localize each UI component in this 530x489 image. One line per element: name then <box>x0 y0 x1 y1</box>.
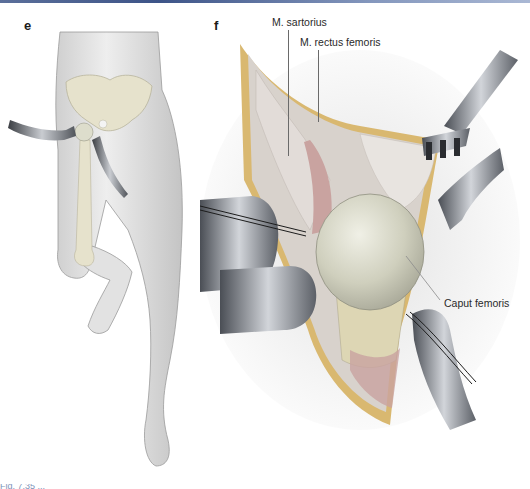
caption-fragment: Fig. 7.35 ... <box>0 484 110 489</box>
label-m-sartorius: M. sartorius <box>272 16 327 28</box>
illustration-surgical-field <box>200 30 530 450</box>
leader-line-rectus-femoris <box>318 50 319 122</box>
leader-line-sartorius <box>288 30 289 156</box>
illustration-lower-body <box>0 0 230 470</box>
leader-line-caput-femoris <box>400 250 480 310</box>
label-m-rectus-femoris: M. rectus femoris <box>300 36 381 48</box>
